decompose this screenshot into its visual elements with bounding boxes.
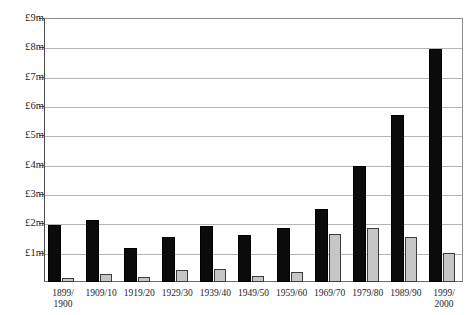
bar-group: [353, 0, 391, 315]
bar-black: [200, 226, 213, 282]
bar-grey: [443, 253, 455, 282]
bar-group: [429, 0, 467, 315]
bar-black: [86, 220, 99, 282]
bar-grey: [252, 276, 264, 282]
bar-black: [162, 237, 175, 282]
bar-group: [315, 0, 353, 315]
y-axis-label: £6m: [4, 101, 44, 111]
y-axis-label: £2m: [4, 218, 44, 228]
bar-grey: [62, 278, 74, 282]
bar-grey: [329, 234, 341, 282]
bar-black: [48, 225, 61, 282]
y-axis-label: £5m: [4, 130, 44, 140]
bar-group: [162, 0, 200, 315]
bar-group: [200, 0, 238, 315]
bar-group: [124, 0, 162, 315]
y-axis-label: £1m: [4, 248, 44, 258]
y-axis-label: £8m: [4, 42, 44, 52]
bar-grey: [367, 228, 379, 282]
bar-grey: [405, 237, 417, 282]
bar-group: [86, 0, 124, 315]
bar-black: [238, 235, 251, 282]
bar-black: [277, 228, 290, 282]
bar-group: [277, 0, 315, 315]
x-axis-label: 1999/ 2000: [419, 288, 468, 310]
y-axis-label: £3m: [4, 189, 44, 199]
bar-group: [238, 0, 276, 315]
bar-black: [391, 115, 404, 282]
bar-black: [353, 166, 366, 282]
bar-black: [429, 49, 442, 282]
bar-black: [124, 248, 137, 282]
bar-chart: £9m£8m£7m£6m£5m£4m£3m£2m£1m1899/ 1900190…: [0, 0, 468, 315]
y-axis-label: £9m: [4, 13, 44, 23]
bar-grey: [138, 277, 150, 282]
y-axis-label: £7m: [4, 72, 44, 82]
bar-black: [315, 209, 328, 282]
bar-grey: [100, 274, 112, 282]
y-axis-label: £4m: [4, 160, 44, 170]
bar-group: [48, 0, 86, 315]
bar-grey: [214, 269, 226, 282]
bar-group: [391, 0, 429, 315]
bar-grey: [291, 272, 303, 282]
bar-grey: [176, 270, 188, 282]
